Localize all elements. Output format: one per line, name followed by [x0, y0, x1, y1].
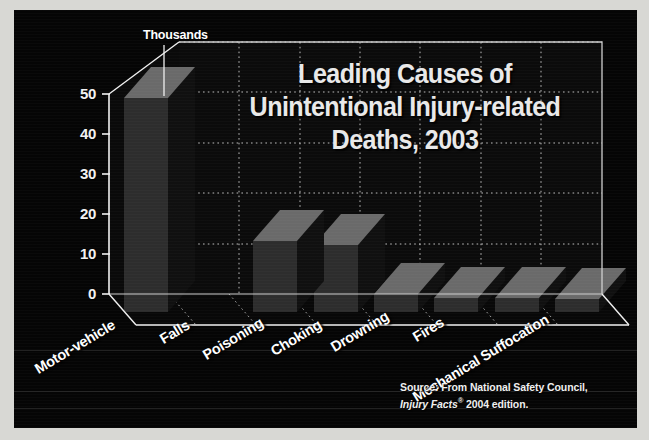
y-axis-unit-label: Thousands: [143, 28, 208, 42]
y-tick-label-10: 10: [52, 245, 96, 262]
bar-motor-vehicle: [124, 67, 195, 312]
chart-title: Leading Causes of Unintentional Injury-r…: [223, 58, 588, 157]
bar-chart-plot: 50 40 30 20 10 0 Thousands Leading Cause…: [14, 10, 637, 428]
chart-title-line-2: Unintentional Injury-related: [223, 91, 588, 124]
slide-panel: 50 40 30 20 10 0 Thousands Leading Cause…: [14, 10, 637, 428]
y-tick-label-20: 20: [52, 205, 96, 222]
source-note: Source: From National Safety Council, In…: [400, 380, 615, 411]
y-tick-label-50: 50: [52, 85, 96, 102]
chart-title-line-1: Leading Causes of: [223, 58, 588, 91]
chart-figure: 50 40 30 20 10 0 Thousands Leading Cause…: [0, 0, 649, 440]
source-line-1: Source: From National Safety Council,: [400, 381, 588, 393]
y-tick-label-0: 0: [52, 285, 96, 302]
source-line-2-tail: 2004 edition.: [463, 397, 528, 409]
source-publication: Injury Facts: [400, 397, 458, 409]
y-tick-label-40: 40: [52, 125, 96, 142]
chart-title-line-3: Deaths, 2003: [223, 124, 588, 157]
y-tick-label-30: 30: [52, 165, 96, 182]
